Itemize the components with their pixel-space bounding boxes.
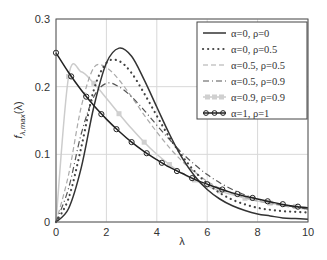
y-axis-label: fλ,max(λ) (12, 101, 27, 138)
y-axis-ticks: 00.10.20.3 (35, 13, 50, 228)
y-tick-label: 0.3 (35, 13, 50, 25)
line-chart: 0246810 00.10.20.3 λ fλ,max(λ) α=0, ρ=0α… (0, 0, 327, 260)
legend-label: α=0, ρ=0 (231, 28, 269, 39)
x-axis-label: λ (179, 235, 185, 247)
y-tick-label: 0 (44, 216, 50, 228)
legend-label: α=1, ρ=1 (231, 108, 269, 119)
legend-label: α=0.5, ρ=0.5 (231, 60, 285, 71)
x-tick-label: 6 (204, 226, 210, 238)
legend-label: α=0.9, ρ=0.9 (231, 92, 285, 103)
x-tick-label: 8 (255, 226, 261, 238)
legend-label: α=0.5, ρ=0.9 (231, 76, 285, 87)
legend: α=0, ρ=0α=0, ρ=0.5α=0.5, ρ=0.5α=0.5, ρ=0… (197, 22, 307, 119)
legend-label: α=0, ρ=0.5 (231, 44, 277, 55)
x-tick-label: 2 (103, 226, 109, 238)
x-tick-label: 0 (53, 226, 59, 238)
x-tick-label: 10 (302, 226, 314, 238)
square-marker (142, 140, 147, 145)
y-tick-label: 0.2 (35, 81, 50, 93)
x-tick-label: 4 (154, 226, 160, 238)
y-tick-label: 0.1 (35, 148, 50, 160)
square-marker (117, 111, 122, 116)
